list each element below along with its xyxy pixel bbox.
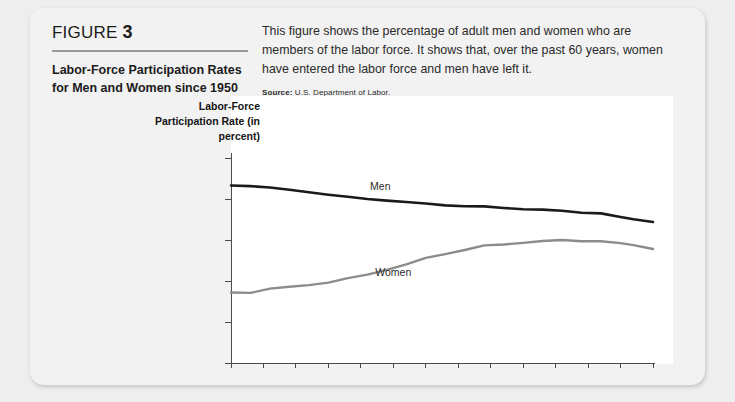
figure-header-left: FIGURE 3 Labor-Force Participation Rates… — [52, 22, 248, 97]
figure-number: 3 — [122, 22, 132, 42]
chart-area: Labor-Force Participation Rate (in perce… — [225, 96, 685, 368]
figure-label: FIGURE 3 — [52, 22, 248, 43]
figure-header-right: This figure shows the percentage of adul… — [262, 22, 674, 97]
line-chart: 0204060801001950195519601965197019751980… — [225, 96, 685, 368]
figure-card: FIGURE 3 Labor-Force Participation Rates… — [30, 8, 705, 385]
figure-label-prefix: FIGURE — [52, 23, 117, 42]
series-label-men: Men — [370, 180, 391, 192]
figure-title: Labor-Force Participation Rates for Men … — [52, 61, 248, 97]
title-divider — [52, 50, 248, 52]
series-line-women — [231, 240, 653, 293]
figure-description: This figure shows the percentage of adul… — [262, 22, 674, 79]
series-label-women: Women — [375, 266, 411, 278]
series-line-men — [231, 185, 653, 221]
